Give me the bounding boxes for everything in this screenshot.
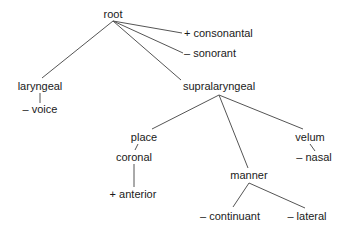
edge-manner-lateral (249, 183, 305, 208)
edge-root-sonorant (113, 21, 183, 53)
edge-supralaryngeal-place (152, 95, 219, 129)
edge-supralaryngeal-manner (219, 95, 248, 168)
node-supralaryngeal: supralaryngeal (183, 80, 255, 92)
tree-nodes: root + consonantal – sonorant laryngeal … (18, 8, 332, 222)
edge-root-consonantal (113, 21, 182, 33)
node-manner: manner (230, 169, 268, 181)
edge-root-laryngeal (42, 21, 113, 78)
edge-velum-nasal (310, 144, 315, 151)
node-velum: velum (295, 131, 324, 143)
node-root: root (104, 8, 123, 20)
node-lateral: – lateral (287, 210, 326, 222)
node-nasal: – nasal (296, 151, 331, 163)
edge-place-coronal (135, 144, 138, 150)
edge-root-supralaryngeal (113, 21, 181, 80)
feature-tree-diagram: root + consonantal – sonorant laryngeal … (0, 0, 346, 232)
node-sonorant: – sonorant (184, 47, 236, 59)
node-anterior: + anterior (110, 188, 157, 200)
edge-manner-continuant (233, 183, 249, 207)
edge-supralaryngeal-velum (219, 95, 303, 129)
node-coronal: coronal (116, 151, 152, 163)
node-place: place (131, 131, 157, 143)
node-voice: – voice (23, 103, 58, 115)
node-consonantal: + consonantal (184, 27, 253, 39)
node-laryngeal: laryngeal (18, 80, 63, 92)
tree-edges (40, 21, 315, 208)
node-continuant: – continuant (200, 210, 260, 222)
